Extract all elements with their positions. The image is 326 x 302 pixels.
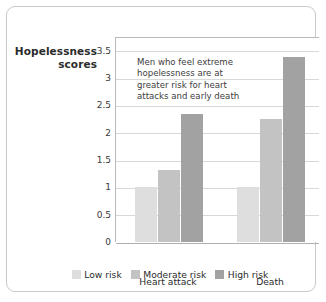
y-axis-title-line1: Hopelessness <box>11 45 97 58</box>
y-tick-label: 3 <box>105 73 111 83</box>
y-axis-title: Hopelessness scores <box>11 45 97 70</box>
chart-card: Hopelessness scores Men who feel extreme… <box>6 6 316 292</box>
chart-legend: Low riskModerate riskHigh risk <box>7 269 326 280</box>
annotation-line: Men who feel extreme <box>137 57 255 68</box>
legend-item[interactable]: High risk <box>215 269 268 280</box>
gridline <box>116 243 319 244</box>
legend-label: Moderate risk <box>143 269 206 280</box>
y-tick-label: 1 <box>105 182 111 192</box>
legend-swatch-icon <box>131 270 140 279</box>
y-axis-title-line2: scores <box>11 58 97 71</box>
annotation-line: greater risk for heart <box>137 80 255 91</box>
y-tick-label: 3.5 <box>97 46 111 56</box>
y-tick-label: 0.5 <box>97 210 111 220</box>
bar <box>158 170 180 242</box>
legend-item[interactable]: Moderate risk <box>131 269 207 280</box>
legend-label: Low risk <box>84 269 121 280</box>
y-tick-label: 0 <box>105 237 111 247</box>
y-tick-label: 2 <box>105 128 111 138</box>
plot-area: Men who feel extremehopelessness are atg… <box>115 37 319 242</box>
legend-swatch-icon <box>215 270 224 279</box>
bar <box>135 187 157 242</box>
bar <box>260 119 282 242</box>
plot-wrapper: Men who feel extremehopelessness are atg… <box>115 37 319 242</box>
annotation-line: attacks and early death <box>137 91 255 102</box>
bar <box>283 57 305 242</box>
y-tick-label: 2.5 <box>97 100 111 110</box>
y-tick-label: 1.5 <box>97 155 111 165</box>
legend-label: High risk <box>228 269 268 280</box>
legend-swatch-icon <box>72 270 81 279</box>
bar <box>237 187 259 242</box>
chart-annotation: Men who feel extremehopelessness are atg… <box>137 57 255 102</box>
annotation-line: hopelessness are at <box>137 68 255 79</box>
legend-item[interactable]: Low risk <box>72 269 122 280</box>
bar <box>181 114 203 242</box>
